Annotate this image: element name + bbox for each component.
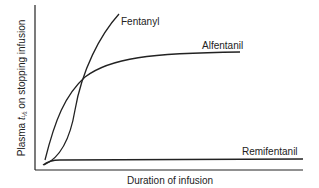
chart: Fentanyl Alfentanil Remifentanil Duratio… [0, 0, 319, 188]
y-axis-label: Plasma t½ on stopping infusion [16, 20, 28, 156]
fentanyl-curve [44, 14, 119, 165]
alfentanil-curve [45, 52, 240, 160]
remifentanil-label: Remifentanil [242, 146, 298, 157]
remifentanil-curve [43, 159, 303, 165]
alfentanil-label: Alfentanil [202, 40, 243, 51]
x-axis-label: Duration of infusion [127, 175, 213, 186]
fentanyl-label: Fentanyl [121, 16, 159, 27]
